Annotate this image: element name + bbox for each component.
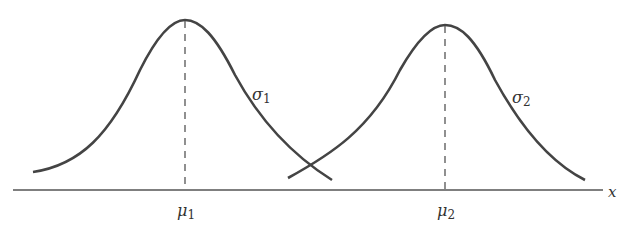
sigma-1-label: σ1 xyxy=(252,85,271,106)
mean-1-label: μ1 xyxy=(177,201,195,222)
normal-curve-1 xyxy=(33,20,332,180)
two-normal-distributions-diagram: x μ1 σ1 μ2 σ2 xyxy=(0,0,630,227)
normal-curve-2 xyxy=(288,25,585,180)
mean-2-label: μ2 xyxy=(437,201,455,222)
sigma-2-label: σ2 xyxy=(512,88,531,109)
x-axis-label: x xyxy=(608,183,617,201)
